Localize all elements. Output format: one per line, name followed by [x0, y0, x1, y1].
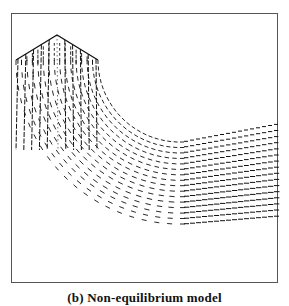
figure-caption: (b) Non-equilibrium model	[0, 290, 289, 306]
channel-inlet-outline	[16, 35, 98, 150]
vector-field	[16, 43, 280, 224]
velocity-vector-plot	[0, 0, 289, 290]
